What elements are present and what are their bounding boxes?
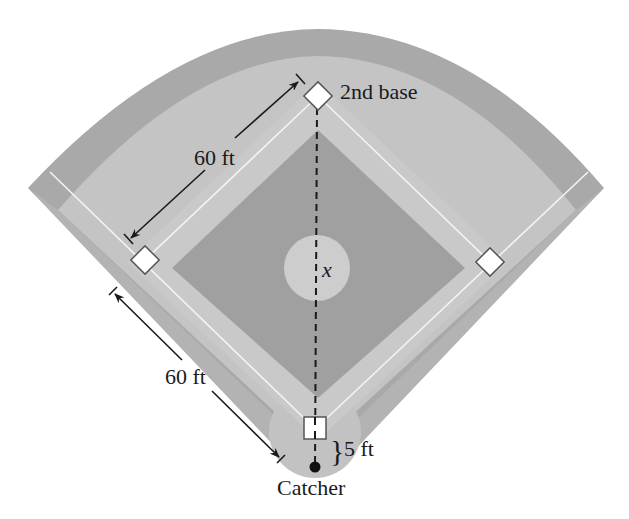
lower-distance-label: 60 ft [165, 364, 206, 389]
upper-distance-label: 60 ft [194, 145, 235, 170]
baseball-field-diagram: 60 ft 60 ft 2nd base x } 5 ft Catcher [0, 0, 629, 519]
second-base-label: 2nd base [340, 79, 418, 104]
catcher-offset-label: 5 ft [344, 436, 374, 461]
brace-symbol: } [330, 434, 344, 467]
catcher-dot [310, 462, 321, 473]
distance-variable-x: x [321, 257, 332, 282]
catcher-label: Catcher [277, 475, 346, 500]
